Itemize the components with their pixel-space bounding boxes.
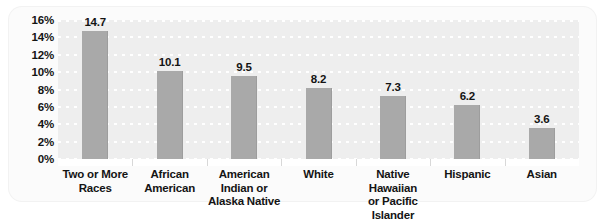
y-axis-tick-label: 8% <box>9 84 54 96</box>
y-axis-tick-label: 6% <box>9 101 54 113</box>
category-label-line: Native Hawaiian <box>352 168 434 195</box>
category-label: Two or MoreRaces <box>54 168 136 195</box>
x-axis-line <box>58 159 579 166</box>
bar-value-label: 10.1 <box>140 56 200 68</box>
bar-value-label: 3.6 <box>512 113 572 125</box>
category-label-line: African <box>128 168 210 182</box>
x-axis-tick-separator <box>430 159 431 166</box>
y-axis-tick-label: 0% <box>9 153 54 165</box>
category-label: AmericanIndian orAlaska Native <box>203 168 285 209</box>
bar <box>306 88 332 159</box>
y-axis: 0%2%4%6%8%10%12%14%16% <box>9 20 54 159</box>
category-label: White <box>277 168 359 182</box>
x-axis-tick-separator <box>281 159 282 166</box>
x-axis-tick-separator <box>356 159 357 166</box>
gridline <box>58 54 579 56</box>
y-axis-tick-label: 10% <box>9 66 54 78</box>
bar-value-label: 8.2 <box>289 73 349 85</box>
bar <box>231 76 257 159</box>
y-axis-tick-label: 2% <box>9 136 54 148</box>
bar <box>157 71 183 159</box>
category-label-line: Hispanic <box>426 168 508 182</box>
category-label-line: American <box>203 168 285 182</box>
category-label: Asian <box>501 168 583 182</box>
bar-value-label: 14.7 <box>65 16 125 28</box>
y-axis-tick-label: 14% <box>9 31 54 43</box>
y-axis-tick-label: 4% <box>9 118 54 130</box>
category-label: Native Hawaiianor Pacific Islander <box>352 168 434 218</box>
category-label-line: or Pacific Islander <box>352 195 434 218</box>
category-label-line: Two or More <box>54 168 136 182</box>
x-axis-tick-separator <box>132 159 133 166</box>
chart-panel: 0%2%4%6%8%10%12%14%16% 14.7Two or MoreRa… <box>9 7 596 201</box>
category-label-line: Asian <box>501 168 583 182</box>
bar <box>380 96 406 159</box>
x-axis-tick-separator <box>505 159 506 166</box>
category-label-line: Alaska Native <box>203 195 285 209</box>
bar <box>82 31 108 159</box>
gridline <box>58 20 579 22</box>
bar <box>529 128 555 159</box>
y-axis-tick-label: 16% <box>9 14 54 26</box>
bar-value-label: 9.5 <box>214 61 274 73</box>
x-axis-tick-separator <box>207 159 208 166</box>
category-label-line: Indian or <box>203 182 285 196</box>
bar-value-label: 7.3 <box>363 81 423 93</box>
category-label-line: American <box>128 182 210 196</box>
category-label: Hispanic <box>426 168 508 182</box>
bar-value-label: 6.2 <box>437 90 497 102</box>
bar <box>454 105 480 159</box>
category-label: AfricanAmerican <box>128 168 210 195</box>
category-label-line: Races <box>54 182 136 196</box>
category-label-line: White <box>277 168 359 182</box>
gridline <box>58 36 579 38</box>
y-axis-tick-label: 12% <box>9 49 54 61</box>
